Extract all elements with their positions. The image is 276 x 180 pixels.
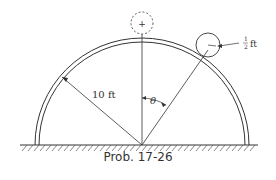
figure-caption: Prob. 17-26 xyxy=(0,150,276,164)
theta-arrow-left xyxy=(142,96,146,100)
top-marker: + xyxy=(138,19,146,29)
ball-radius-line xyxy=(208,45,216,46)
angle-label: θ xyxy=(150,95,156,106)
ball-radius-unit: ft xyxy=(250,39,257,49)
radius-label: 10 ft xyxy=(92,89,116,100)
radius-line xyxy=(62,77,142,145)
ball-radius-den: 2 xyxy=(244,43,248,50)
ball-radius-num: 1 xyxy=(244,35,248,42)
